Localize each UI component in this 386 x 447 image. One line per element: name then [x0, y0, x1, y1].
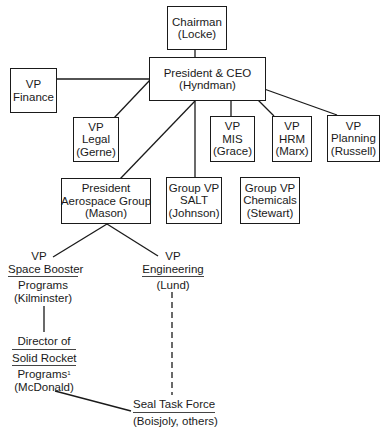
node-vp-finance: VP Finance [10, 68, 57, 113]
node-person: (Lund) [142, 279, 204, 292]
node-title: VP [346, 120, 361, 133]
node-dept-line2: Programs [8, 279, 78, 292]
node-person: (Grace) [213, 145, 252, 158]
node-person: (Mason) [85, 207, 127, 220]
node-dept: Chemicals [243, 194, 297, 207]
node-group-vp-chemicals: Group VP Chemicals (Stewart) [240, 177, 300, 224]
footnote-marker: 1 [67, 370, 70, 376]
node-dept: Engineering [142, 263, 204, 278]
node-dept: Legal [82, 133, 110, 146]
node-title: President & CEO [164, 67, 252, 80]
node-dept: MIS [222, 133, 242, 146]
node-person: (Kilminster) [8, 292, 78, 305]
node-dept-line2: Programs1 [12, 368, 76, 381]
node-title: Chairman [172, 16, 222, 29]
node-title: Seal Task Force [133, 398, 215, 413]
node-dept: Planning [331, 132, 376, 145]
node-group-vp-salt: Group VP SALT (Johnson) [166, 177, 222, 224]
node-president-aerospace: President Aerospace Group (Mason) [61, 178, 151, 224]
node-person: (McDonald) [12, 381, 76, 394]
node-vp-hrm: VP HRM (Marx) [272, 116, 312, 162]
node-dept: Space Booster [8, 263, 78, 278]
node-vp-planning: VP Planning (Russell) [327, 115, 380, 162]
node-dept: Aerospace Group [61, 195, 151, 208]
node-title: VP [0, 250, 78, 263]
node-person: (Marx) [275, 145, 308, 158]
node-dept: Solid Rocket [12, 352, 76, 367]
node-dept: HRM [279, 133, 305, 146]
node-title: Group VP [245, 182, 296, 195]
node-vp-space-booster: VP Space Booster Programs (Kilminster) [8, 250, 78, 304]
node-title: VP [88, 121, 103, 134]
node-vp-engineering: VP Engineering (Lund) [142, 250, 204, 292]
node-dept-text: Programs [17, 368, 67, 380]
node-person: (Johnson) [168, 207, 219, 220]
node-seal-task-force: Seal Task Force (Boisjoly, others) [133, 398, 215, 427]
node-title: VP [225, 120, 240, 133]
node-person: (Russell) [331, 145, 376, 158]
node-person: (Hyndman) [179, 79, 236, 92]
node-person: (Locke) [178, 28, 216, 41]
node-person: (Gerne) [76, 146, 116, 159]
node-director-solid-rocket: Director of Solid Rocket Programs1 (McDo… [12, 335, 76, 393]
node-title: VP [26, 78, 41, 91]
node-title: VP [142, 250, 204, 263]
node-vp-mis: VP MIS (Grace) [210, 116, 255, 162]
node-dept: Finance [13, 91, 54, 104]
node-title: President [82, 182, 131, 195]
node-title: Director of [12, 335, 76, 350]
node-title: VP [284, 120, 299, 133]
node-person: (Stewart) [247, 207, 294, 220]
node-vp-legal: VP Legal (Gerne) [73, 117, 119, 162]
node-dept: SALT [180, 194, 208, 207]
node-chairman: Chairman (Locke) [167, 6, 227, 50]
node-title: Group VP [169, 182, 220, 195]
node-person: (Boisjoly, others) [133, 415, 215, 428]
node-president-ceo: President & CEO (Hyndman) [149, 57, 266, 101]
